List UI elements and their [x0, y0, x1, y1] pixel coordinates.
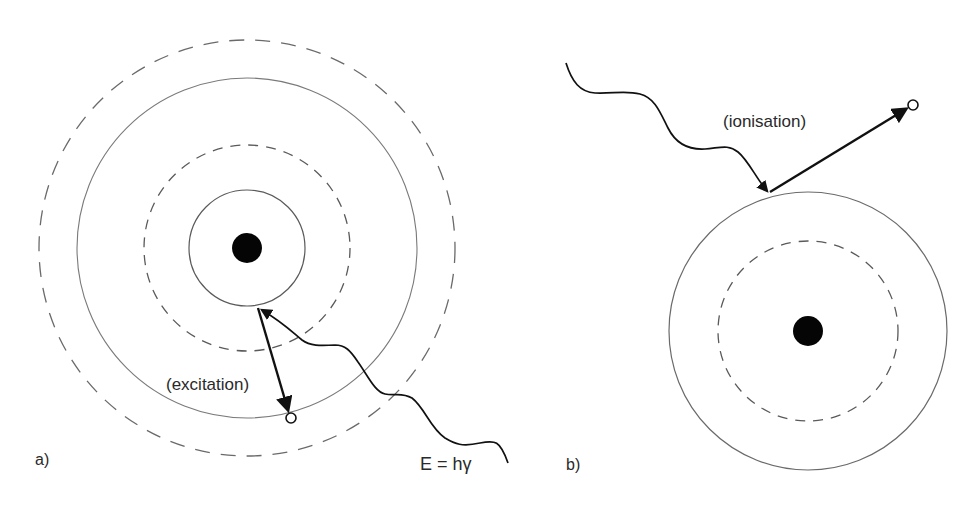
nucleus	[232, 233, 262, 263]
nucleus	[793, 316, 823, 346]
excitation-arrow	[258, 308, 288, 410]
excitation-label: (excitation)	[166, 375, 249, 394]
panel-a-label: a)	[35, 451, 49, 468]
excited-electron	[286, 413, 296, 423]
atom-excitation-ionisation-diagram: (excitation) a) E = hγ (ionisation) b)	[0, 0, 976, 512]
panel-b-label: b)	[566, 456, 580, 473]
ejected-electron	[908, 100, 918, 110]
photon-energy-label: E = hγ	[420, 454, 472, 474]
photon-wave	[262, 310, 508, 463]
ionisation-label: (ionisation)	[723, 112, 806, 131]
panel-a: (excitation) a) E = hγ	[35, 40, 508, 474]
panel-b: (ionisation) b)	[566, 63, 947, 473]
